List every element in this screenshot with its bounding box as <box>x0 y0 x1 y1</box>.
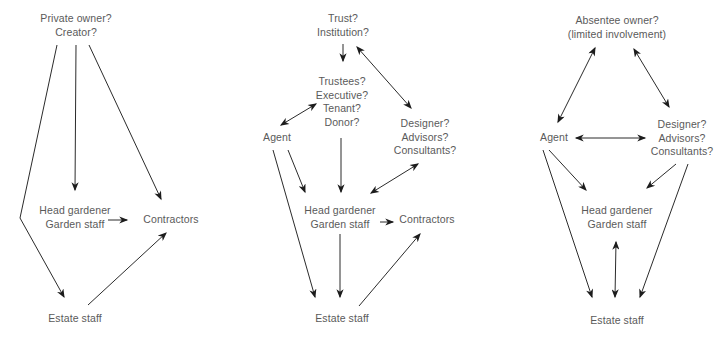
node-trust-line1: Trust? <box>317 12 369 26</box>
node-estate-staff-left-line1: Estate staff <box>48 312 102 326</box>
edge-absentee-owner-agent <box>558 48 595 122</box>
node-trust: Trust? Institution? <box>317 12 369 39</box>
node-private-owner: Private owner? Creator? <box>40 12 111 39</box>
node-trustees-line1: Trustees? <box>316 75 368 89</box>
diagram-edges-layer <box>0 0 728 345</box>
node-contractors-mid-line1: Contractors <box>399 213 454 227</box>
edge-estate-staff-contractors <box>88 233 166 305</box>
node-designer-right: Designer? Advisors? Consultants? <box>651 118 714 159</box>
node-trust-line2: Institution? <box>317 26 369 40</box>
node-estate-staff-right: Estate staff <box>590 314 644 328</box>
node-agent-right-line1: Agent <box>540 131 568 145</box>
node-head-gardener-left-line1: Head gardener <box>39 204 110 218</box>
node-designer-mid-line2: Advisors? <box>394 131 457 145</box>
node-designer-right-line3: Consultants? <box>651 145 714 159</box>
node-contractors-left-line1: Contractors <box>143 213 198 227</box>
node-head-gardener-right-line1: Head gardener <box>581 204 652 218</box>
node-absentee-owner-line1: Absentee owner? <box>568 14 666 28</box>
node-estate-staff-mid-line1: Estate staff <box>315 312 369 326</box>
node-estate-staff-mid: Estate staff <box>315 312 369 326</box>
node-designer-mid-line3: Consultants? <box>394 144 457 158</box>
edge-owner-estate-staff <box>20 45 64 297</box>
node-designer-mid: Designer? Advisors? Consultants? <box>394 117 457 158</box>
node-contractors-mid: Contractors <box>399 213 454 227</box>
node-trustees: Trustees? Executive? Tenant? Donor? <box>316 75 368 129</box>
node-head-gardener-right: Head gardener Garden staff <box>581 204 652 231</box>
node-head-gardener-mid: Head gardener Garden staff <box>304 204 375 231</box>
node-private-owner-line2: Creator? <box>40 26 111 40</box>
node-head-gardener-mid-line2: Garden staff <box>304 218 375 232</box>
node-head-gardener-left-line2: Garden staff <box>39 218 110 232</box>
edge-owner-head-gardener <box>75 45 76 190</box>
node-estate-staff-right-line1: Estate staff <box>590 314 644 328</box>
edge-designer-head-gardener-right <box>647 164 676 188</box>
node-designer-right-line2: Advisors? <box>651 132 714 146</box>
node-designer-mid-line1: Designer? <box>394 117 457 131</box>
node-head-gardener-mid-line1: Head gardener <box>304 204 375 218</box>
node-private-owner-line1: Private owner? <box>40 12 111 26</box>
edge-head-gardener-estate-staff-right <box>615 242 616 297</box>
edge-absentee-owner-designer <box>634 49 669 107</box>
node-estate-staff-left: Estate staff <box>48 312 102 326</box>
node-contractors-left: Contractors <box>143 213 198 227</box>
edge-agent-head-gardener <box>288 150 305 192</box>
node-agent-right: Agent <box>540 131 568 145</box>
node-absentee-owner: Absentee owner? (limited involvement) <box>568 14 666 41</box>
node-head-gardener-left: Head gardener Garden staff <box>39 204 110 231</box>
edge-trustees-agent <box>281 104 316 125</box>
edge-estate-staff-contractors-mid <box>359 234 420 306</box>
node-trustees-line3: Tenant? <box>316 102 368 116</box>
node-trustees-line2: Executive? <box>316 89 368 103</box>
garden-management-diagrams: Private owner? Creator? Head gardener Ga… <box>0 0 728 345</box>
node-trustees-line4: Donor? <box>316 116 368 130</box>
node-head-gardener-right-line2: Garden staff <box>581 218 652 232</box>
edge-owner-contractors <box>89 45 161 199</box>
edge-designer-head-gardener <box>371 164 418 193</box>
node-designer-right-line1: Designer? <box>651 118 714 132</box>
node-absentee-owner-line2: (limited involvement) <box>568 28 666 42</box>
node-agent-mid: Agent <box>263 131 291 145</box>
node-agent-mid-line1: Agent <box>263 131 291 145</box>
